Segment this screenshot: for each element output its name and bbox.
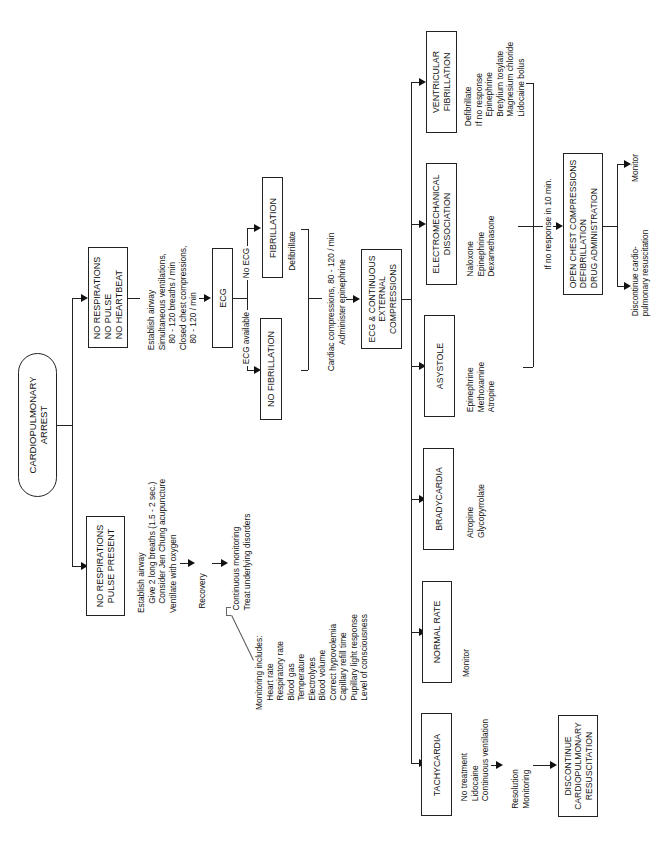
arrow-icon: [221, 559, 228, 567]
connector: [212, 563, 221, 564]
cardiopulmonary-arrest-node: CARDIOPULMONARY ARREST: [18, 353, 57, 497]
arrow-icon: [556, 222, 563, 230]
connector: [346, 299, 353, 300]
no-heartbeat-actions: Establish airway Simultaneous ventilatio…: [141, 240, 203, 356]
connector: [533, 765, 550, 766]
callout-bracket: [226, 607, 231, 608]
callout-bracket: [226, 607, 227, 615]
monitoring-includes-list: Monitoring includes: Heart rate Respirat…: [253, 608, 371, 716]
connector: [411, 632, 419, 633]
connector: [617, 286, 624, 287]
ecg-box: ECG: [212, 248, 233, 348]
vf-treatment: Defibrillate If no response Epinephrine …: [460, 36, 528, 132]
connector: [411, 82, 419, 83]
connector: [603, 226, 617, 227]
connector: [411, 499, 419, 500]
arrow-icon: [353, 295, 360, 303]
connector: [247, 228, 254, 229]
normal-rate-treatment: Monitor: [460, 645, 472, 681]
arrow-icon: [550, 761, 557, 769]
pulse-present-actions: Establish airway Give 2 long breaths (1.…: [134, 478, 180, 614]
connector: [180, 563, 188, 564]
fibrillation-label: FIBRILLATION: [267, 198, 278, 258]
fibrillation-box: FIBRILLATION: [262, 177, 283, 278]
asystole-treatment: Epinephrine Methoxamine Atropine: [462, 358, 500, 416]
connector: [247, 370, 254, 371]
asystole-box: ASYSTOLE: [424, 315, 455, 417]
ecg-available-label: ECG available: [241, 310, 253, 366]
no-fibrillation-box: NO FIBRILLATION: [260, 318, 282, 420]
arrow-icon: [188, 559, 195, 567]
connector: [128, 298, 140, 299]
no-respirations-pulse-present-box: NO RESPIRATIONS PULSE PRESENT: [86, 516, 125, 616]
open-chest-compressions-box: OPEN CHEST COMPRESSIONS DEFIBRILLATION D…: [563, 153, 603, 295]
connector: [301, 229, 308, 230]
connector: [617, 164, 618, 286]
resolution-monitoring-text: Resolution Monitoring: [508, 766, 532, 812]
no-respirations-no-heartbeat-box: NO RESPIRATIONS NO PULSE NO HEARTBEAT: [88, 247, 128, 348]
rhythm-trunk: [411, 82, 412, 764]
arrow-icon: [496, 761, 503, 769]
ecg-label: ECG: [217, 288, 228, 308]
no-fibrillation-label: NO FIBRILLATION: [266, 331, 277, 407]
bradycardia-treatment: Atropine Glycopyrrolate: [462, 482, 488, 540]
no-heartbeat-label: NO RESPIRATIONS NO PULSE NO HEARTBEAT: [92, 256, 124, 338]
connector: [411, 763, 419, 764]
continuous-monitoring-text: Continuous monitoring Treat underlying d…: [230, 510, 252, 614]
cardiac-compressions-text: Cardiac compressions, 80 - 120 / min Adm…: [323, 232, 349, 372]
connector: [233, 298, 247, 299]
connector: [533, 83, 534, 367]
bradycardia-box: BRADYCARDIA: [423, 448, 454, 550]
connector: [301, 370, 308, 371]
connector: [308, 229, 309, 370]
arrow-icon: [254, 224, 261, 232]
tachycardia-treatment: No treatment Lidocaine Continuous ventil…: [458, 714, 492, 806]
arrow-icon: [419, 78, 426, 86]
electromechanical-dissociation-box: ELECTROMECHANICAL DISSOCIATION: [426, 163, 457, 285]
connector: [72, 298, 73, 566]
connector: [57, 425, 73, 426]
connector: [411, 224, 419, 225]
recovery-label: Recovery: [196, 568, 208, 614]
no-ecg-label: No ECG: [241, 246, 253, 280]
connector: [308, 298, 322, 299]
connector: [72, 566, 81, 567]
ventricular-fibrillation-box: VENTRICULAR FIBRILLATION: [426, 31, 457, 133]
connector: [617, 164, 624, 165]
tachycardia-box: TACHYCARDIA: [421, 713, 452, 816]
normal-rate-box: NORMAL RATE: [422, 581, 452, 683]
discontinue-cpr-box: DISCONTINUE CARDIOPULMONARY RESUSCITATIO…: [558, 715, 598, 817]
defibrillate-label: Defibrillate: [286, 228, 298, 274]
cardiopulmonary-arrest-label: CARDIOPULMONARY ARREST: [26, 377, 49, 474]
arrow-icon: [419, 220, 426, 228]
ecg-continuous-label: ECG & CONTINUOUS EXTERNAL COMPRESSIONS: [366, 256, 397, 343]
arrow-icon: [204, 294, 211, 302]
discontinue-cardio-pulmonary-label: Discontinue cardio- pulmonary resuscitat…: [628, 218, 654, 328]
connector: [411, 366, 419, 367]
no-response-label: If no response in 10 min.: [542, 168, 554, 280]
ecg-continuous-compressions-box: ECG & CONTINUOUS EXTERNAL COMPRESSIONS: [361, 249, 402, 349]
arrow-icon: [81, 294, 88, 302]
emd-treatment: Naloxone Epinephrine Dexamethasone: [462, 212, 500, 280]
connector: [523, 367, 533, 368]
callout-line: [231, 615, 254, 660]
monitor-label: Monitor: [629, 150, 641, 186]
connector: [72, 298, 81, 299]
pulse-present-label: NO RESPIRATIONS PULSE PRESENT: [95, 525, 117, 607]
